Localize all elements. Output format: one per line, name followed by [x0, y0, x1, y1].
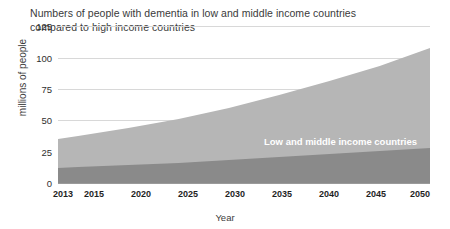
x-tick-2015: 2015 [84, 189, 104, 199]
chart-figure: Numbers of people with dementia in low a… [0, 0, 450, 229]
series-label-low-middle-income: Low and middle income countries [264, 136, 417, 147]
x-tick-2045: 2045 [366, 189, 386, 199]
x-tick-2035: 2035 [272, 189, 292, 199]
x-axis-line [58, 183, 430, 184]
x-tick-2030: 2030 [225, 189, 245, 199]
x-axis-ticks: 2013 2015 2020 2025 2030 2035 2040 2045 … [0, 189, 450, 203]
x-tick-2025: 2025 [178, 189, 198, 199]
x-tick-2013: 2013 [53, 189, 73, 199]
y-axis-ticks: 0 25 50 75 100 125 [0, 25, 56, 183]
plot-area: Low and middle income countries High inc… [58, 25, 430, 183]
y-tick-25: 25 [6, 146, 52, 157]
y-tick-125: 125 [6, 21, 52, 32]
y-tick-0: 0 [6, 178, 52, 189]
y-tick-75: 75 [6, 84, 52, 95]
y-tick-50: 50 [6, 115, 52, 126]
x-axis-label: Year [0, 212, 450, 223]
x-tick-2040: 2040 [319, 189, 339, 199]
x-tick-2020: 2020 [131, 189, 151, 199]
area-svg [58, 25, 430, 183]
y-tick-100: 100 [6, 52, 52, 63]
stacked-area-series [58, 25, 430, 183]
x-tick-2050: 2050 [410, 189, 430, 199]
